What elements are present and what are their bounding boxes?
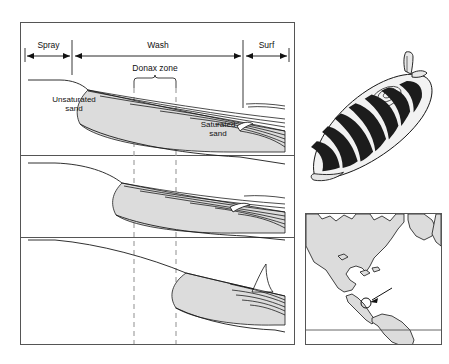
zone-label-wash: Wash	[147, 40, 169, 50]
donax-zone-label: Donax zone	[132, 63, 178, 73]
island-1	[360, 270, 370, 276]
figure-root: Spray Wash Surf Donax zone	[0, 0, 449, 364]
donax-clam-shell	[290, 52, 448, 199]
saturated-sand-wedge-2	[113, 183, 285, 233]
east-landmass	[432, 214, 441, 246]
profile-panel-2	[28, 163, 285, 240]
beach-surface-line-2	[28, 163, 122, 183]
zone-label-spray: Spray	[37, 40, 60, 50]
donax-zone-bracket	[134, 75, 176, 88]
label-unsaturated-sand-line1: Unsaturated	[52, 95, 96, 104]
label-saturated-sand-line1: Saturated	[201, 120, 236, 129]
label-saturated-sand-line2: sand	[209, 129, 226, 138]
profile-panel-1	[28, 80, 285, 164]
beach-surface-line-3	[28, 240, 186, 273]
americas-distribution-map	[306, 214, 442, 347]
profile-panel-3	[28, 240, 285, 332]
surf-foam-line-1	[246, 104, 285, 106]
central-america-landmass	[346, 294, 376, 324]
island-2	[372, 267, 380, 272]
north-america-landmass	[306, 214, 404, 292]
saturated-sand-wedge-1	[77, 90, 285, 152]
location-marker-arrow	[370, 288, 392, 303]
spray-zone-arrow	[27, 53, 70, 59]
label-unsaturated-sand-line2: sand	[65, 104, 82, 113]
surf-foam-line-1b	[248, 107, 285, 109]
greenland-landmass	[408, 214, 436, 240]
figure-canvas: Spray Wash Surf Donax zone	[0, 0, 449, 364]
surf-foam-line-2	[244, 196, 285, 198]
beach-surface-line-1	[28, 80, 88, 90]
zone-label-surf: Surf	[259, 40, 275, 50]
surf-zone-arrow	[246, 53, 287, 59]
shell-siphon	[404, 52, 427, 78]
wash-zone-arrow	[75, 53, 241, 59]
